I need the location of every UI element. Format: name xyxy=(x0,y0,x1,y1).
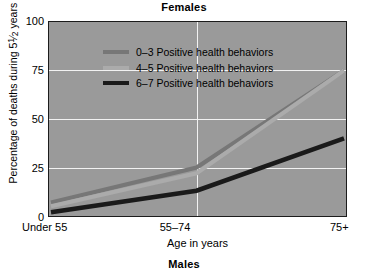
x-tick-under-55: Under 55 xyxy=(22,221,67,233)
legend-swatch-6-7 xyxy=(103,81,129,85)
legend-label-0-3: 0–3 Positive health behaviors xyxy=(136,47,273,58)
legend-item-4-5: 4–5 Positive health behaviors xyxy=(103,63,273,74)
plot-area: 0–3 Positive health behaviors 4–5 Positi… xyxy=(48,21,347,217)
y-axis-ticks: 100 75 50 25 0 xyxy=(0,0,44,276)
y-tick-100: 100 xyxy=(2,15,44,27)
series-line-6-7 xyxy=(51,138,344,212)
legend-item-6-7: 6–7 Positive health behaviors xyxy=(103,78,273,89)
x-axis-label: Age in years xyxy=(48,237,347,249)
legend-label-6-7: 6–7 Positive health behaviors xyxy=(136,78,273,89)
legend-swatch-4-5 xyxy=(103,66,129,70)
series-line-4-5 xyxy=(51,71,344,207)
x-tick-55-74: 55–74 xyxy=(160,221,191,233)
y-tick-50: 50 xyxy=(2,113,44,125)
legend-swatch-0-3 xyxy=(103,50,129,54)
legend-item-0-3: 0–3 Positive health behaviors xyxy=(103,47,273,58)
chart-title-females: Females xyxy=(0,1,368,13)
legend-label-4-5: 4–5 Positive health behaviors xyxy=(136,63,273,74)
legend: 0–3 Positive health behaviors 4–5 Positi… xyxy=(103,47,273,89)
figure: Females Percentage of deaths during 51⁄2… xyxy=(0,0,368,276)
y-tick-75: 75 xyxy=(2,64,44,76)
x-tick-75-plus: 75+ xyxy=(330,221,349,233)
y-tick-25: 25 xyxy=(2,162,44,174)
series-line-0-3 xyxy=(51,71,344,203)
chart-caption-males: Males xyxy=(0,258,368,270)
